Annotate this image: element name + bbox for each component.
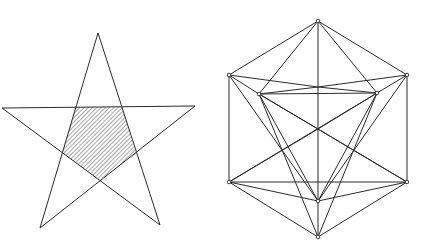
stellated-solid-figure (229, 21, 407, 237)
edge-line (259, 93, 377, 94)
vertex-marker-icon (405, 73, 409, 77)
edge-line (318, 21, 407, 75)
edge-line (318, 182, 407, 237)
edge-line (229, 182, 318, 201)
vertex-marker-icon (316, 199, 320, 203)
vertex-marker-icon (405, 180, 409, 184)
edge-line (229, 75, 259, 94)
vertex-marker-icon (227, 180, 231, 184)
edge-line (318, 75, 407, 87)
edge-line (259, 94, 318, 237)
vertex-marker-icon (375, 91, 379, 95)
edge-line (377, 75, 407, 93)
edge-line (259, 87, 318, 94)
edge-line (318, 93, 377, 237)
edge-line (229, 129, 318, 182)
edge-line (259, 94, 318, 201)
vertex-marker-icon (316, 235, 320, 239)
vertex-marker-icon (316, 19, 320, 23)
vertex-marker-icon (257, 92, 261, 96)
diagram-canvas (0, 0, 431, 251)
edge-line (318, 21, 377, 93)
edge-line (229, 21, 318, 75)
edge-line (318, 129, 407, 182)
edge-line (318, 87, 377, 93)
edge-line (229, 182, 318, 237)
edge-line (318, 182, 407, 201)
pentagram-figure (2, 33, 195, 228)
vertex-marker-icon (227, 73, 231, 77)
